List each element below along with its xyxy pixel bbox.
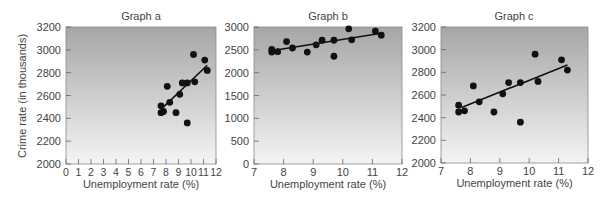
x-tick-label: 3	[101, 166, 107, 178]
data-point	[372, 28, 379, 35]
x-tick-label: 10	[523, 165, 535, 177]
plot-area	[66, 27, 216, 164]
x-tick-label: 12	[210, 166, 222, 178]
x-tick-label: 10	[185, 166, 197, 178]
x-tick-label: 8	[281, 166, 287, 178]
data-point	[274, 48, 281, 55]
data-point	[499, 90, 506, 97]
data-point	[517, 119, 524, 126]
data-point	[201, 57, 208, 64]
y-tick-label: 2800	[412, 66, 436, 78]
y-tick-label: 2000	[37, 158, 61, 170]
y-tick-label: 2200	[412, 134, 436, 146]
x-tick-label: 2	[88, 166, 94, 178]
data-point	[461, 107, 468, 114]
data-point	[564, 67, 571, 74]
data-point	[505, 79, 512, 86]
y-tick-label: 2600	[412, 89, 436, 101]
y-tick-label: 2500	[225, 44, 249, 56]
data-point	[164, 83, 171, 90]
y-tick-label: 1500	[225, 90, 249, 102]
chart-title: Graph c	[494, 10, 534, 22]
x-tick-label: 7	[151, 166, 157, 178]
x-tick-label: 10	[337, 166, 349, 178]
x-tick-label: 0	[63, 166, 69, 178]
x-axis-label: Unemployment rate (%)	[83, 178, 199, 190]
x-tick-label: 12	[582, 165, 594, 177]
x-tick-label: 9	[176, 166, 182, 178]
data-point	[378, 32, 385, 39]
data-point	[455, 102, 462, 109]
plot-area	[254, 27, 402, 164]
x-tick-label: 9	[310, 166, 316, 178]
y-tick-label: 2400	[412, 112, 436, 124]
y-tick-label: 2000	[412, 157, 436, 169]
x-tick-label: 11	[553, 165, 564, 177]
y-tick-label: 3200	[37, 21, 61, 33]
y-tick-label: 2400	[37, 112, 61, 124]
x-tick-label: 7	[251, 166, 257, 178]
y-tick-label: 3000	[37, 44, 61, 56]
x-tick-label: 12	[396, 166, 408, 178]
x-tick-label: 8	[163, 166, 169, 178]
data-point	[166, 99, 173, 106]
data-point	[532, 51, 539, 58]
chart-title: Graph a	[121, 10, 162, 22]
x-tick-label: 11	[198, 166, 209, 178]
x-axis-label: Unemployment rate (%)	[270, 178, 386, 190]
data-point	[160, 108, 167, 115]
data-point	[517, 79, 524, 86]
data-point	[476, 98, 483, 105]
x-tick-label: 9	[497, 165, 503, 177]
data-point	[176, 91, 183, 98]
figure-root: Crime rate (in thousands) Graph a2000220…	[0, 0, 610, 205]
chart-panel-c: Graph c200022002400260028003000320078910…	[412, 10, 595, 189]
data-point	[455, 109, 462, 116]
y-tick-label: 500	[231, 135, 249, 147]
y-tick-label: 3200	[412, 21, 436, 33]
data-point	[173, 109, 180, 116]
data-point	[289, 45, 296, 52]
chart-panel-a: Graph a200022002400260028003000320001234…	[37, 10, 222, 190]
plot-area	[441, 27, 588, 163]
data-point	[184, 80, 191, 87]
data-point	[204, 67, 211, 74]
data-point	[331, 53, 338, 60]
data-point	[348, 36, 355, 43]
data-point	[470, 83, 477, 90]
data-point	[558, 56, 565, 63]
y-tick-label: 3000	[225, 21, 249, 33]
x-tick-label: 5	[126, 166, 132, 178]
x-tick-label: 1	[76, 166, 82, 178]
data-point	[191, 78, 198, 85]
data-point	[184, 120, 191, 127]
y-tick-label: 0	[243, 158, 249, 170]
y-tick-label: 3000	[412, 44, 436, 56]
y-tick-label: 1000	[225, 112, 249, 124]
y-tick-label: 2200	[37, 135, 61, 147]
x-tick-label: 6	[138, 166, 144, 178]
y-tick-label: 2800	[37, 67, 61, 79]
data-point	[283, 38, 290, 45]
y-tick-label: 2000	[225, 67, 249, 79]
data-point	[331, 37, 338, 44]
data-point	[535, 78, 542, 85]
x-tick-label: 11	[367, 166, 378, 178]
chart-title: Graph b	[308, 10, 348, 22]
x-tick-label: 8	[467, 165, 473, 177]
x-tick-label: 4	[113, 166, 119, 178]
data-point	[268, 49, 275, 56]
data-point	[304, 49, 311, 56]
y-tick-label: 2600	[37, 90, 61, 102]
scatter-figure: Crime rate (in thousands) Graph a2000220…	[0, 0, 610, 205]
data-point	[491, 109, 498, 116]
y-axis-label: Crime rate (in thousands)	[16, 34, 28, 158]
x-axis-label: Unemployment rate (%)	[456, 177, 572, 189]
data-point	[313, 41, 320, 48]
data-point	[190, 51, 197, 58]
x-tick-label: 7	[438, 165, 444, 177]
data-point	[319, 37, 326, 44]
data-point	[345, 25, 352, 32]
chart-panel-b: Graph b050010001500200025003000789101112…	[225, 10, 409, 190]
